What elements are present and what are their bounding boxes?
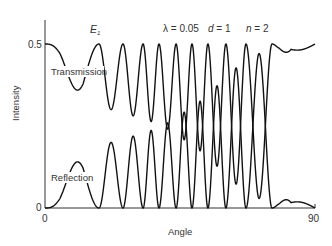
chart-canvas: 0.5 0 0 90 Angle Intensity E1 λ = 0.05 d… [0,0,332,246]
x-tick-0: 0 [42,213,48,224]
reflection-label: Reflection [51,172,93,183]
field-label: E1 [90,23,100,36]
x-axis-title: Angle [168,226,192,237]
y-tick-0: 0 [36,202,42,213]
d-param: d = 1 [208,23,231,34]
y-tick-0.5: 0.5 [28,39,42,50]
y-axis-title: Intensity [10,85,21,121]
lambda-param: λ = 0.05 [163,23,199,34]
x-tick-90: 90 [308,213,320,224]
n-param: n = 2 [246,23,269,34]
transmission-label: Transmission [51,66,107,77]
